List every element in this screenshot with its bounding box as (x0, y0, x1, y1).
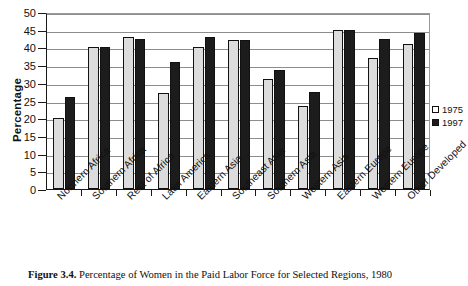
x-axis-tick (221, 190, 222, 196)
y-axis-tick-label: 35 (10, 61, 36, 72)
y-axis-tick (38, 48, 46, 49)
x-axis-tick (325, 190, 326, 196)
y-axis-tick-label: 20 (10, 114, 36, 125)
y-axis-tick (38, 84, 46, 85)
bar-chart: Percentage 05101520253035404550 Northern… (0, 0, 465, 258)
x-axis-tick (81, 190, 82, 196)
bar-1997-eastern-asia (205, 37, 216, 189)
y-axis-tick (38, 31, 46, 32)
bar-1997-other-developed (414, 33, 425, 189)
x-axis-tick (116, 190, 117, 196)
figure-caption: Figure 3.4. Percentage of Women in the P… (28, 268, 448, 281)
y-axis-tick (38, 119, 46, 120)
bar-1997-rest-of-africa (135, 39, 146, 189)
y-axis-tick-label: 15 (10, 132, 36, 143)
y-axis-tick (38, 137, 46, 138)
legend-label-1975: 1975 (442, 104, 463, 115)
y-axis-tick-label: 5 (10, 167, 36, 178)
y-axis-tick (38, 190, 46, 191)
y-axis-tick-label: 45 (10, 26, 36, 37)
x-axis-tick (395, 190, 396, 196)
y-axis-tick (38, 13, 46, 14)
y-axis-tick-label: 10 (10, 150, 36, 161)
x-axis-tick (290, 190, 291, 196)
bar-1997-southern-asia (274, 70, 285, 189)
x-axis-tick (255, 190, 256, 196)
caption-text: Percentage of Women in the Paid Labor Fo… (79, 269, 392, 280)
legend-label-1997: 1997 (442, 117, 463, 128)
y-axis-tick (38, 155, 46, 156)
legend-item-1975: 1975 (432, 104, 463, 115)
y-axis-tick (38, 102, 46, 103)
x-axis-tick (151, 190, 152, 196)
legend: 19751997 (432, 104, 463, 130)
y-axis-tick (38, 66, 46, 67)
legend-item-1997: 1997 (432, 117, 463, 128)
x-axis-tick (360, 190, 361, 196)
legend-swatch-1997 (432, 119, 439, 126)
x-axis-tick (186, 190, 187, 196)
y-axis-tick-label: 50 (10, 8, 36, 19)
y-axis-tick-label: 25 (10, 97, 36, 108)
y-axis-tick (38, 172, 46, 173)
gridline (47, 32, 429, 33)
y-axis-tick-label: 0 (10, 185, 36, 196)
bar-1997-southeast-asia (240, 40, 251, 189)
caption-label: Figure 3.4. (28, 269, 76, 280)
y-axis-tick-label: 30 (10, 79, 36, 90)
gridline (47, 14, 429, 15)
x-axis-tick (430, 190, 431, 196)
bar-1997-eastern-europe (344, 30, 355, 189)
bar-1997-western-europe (379, 39, 390, 189)
bar-1975-western-asia (298, 106, 309, 189)
bar-1975-northern-africa (53, 118, 64, 189)
bar-1997-latin-america (170, 62, 181, 189)
y-axis-tick-label: 40 (10, 43, 36, 54)
bar-1997-southern-africa (100, 47, 111, 189)
legend-swatch-1975 (432, 106, 439, 113)
